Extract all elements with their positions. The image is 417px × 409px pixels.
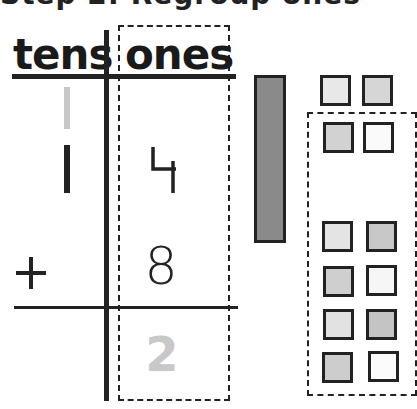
ten-rod [254,75,286,243]
unit-cube [366,221,397,252]
unit-cube [323,309,354,340]
page-title: Step 2: Regroup ones [0,0,361,11]
row2-ones-digit: 8 [141,240,181,292]
row1-ones-digit: 4 [150,145,176,193]
unit-cube [323,266,354,297]
sum-line [14,306,238,309]
carried-unit-cube [320,75,351,106]
plus-operator: + [16,257,46,289]
header-divider [12,74,236,79]
unit-cube [368,351,399,382]
unit-cube [363,122,394,153]
unit-cube [366,309,397,340]
carry-digit: 1 [64,87,70,129]
digit-four-glyph [150,145,176,193]
unit-cube [366,265,397,296]
carried-unit-cube [362,75,393,106]
ones-header: ones [125,34,233,76]
unit-cube [322,352,353,383]
tens-header: tens [13,34,112,76]
column-divider [104,30,109,401]
unit-cube [323,122,354,153]
result-ones-digit: 2 [142,330,182,378]
row1-tens-digit: 1 [64,145,70,193]
unit-cube [322,221,353,252]
